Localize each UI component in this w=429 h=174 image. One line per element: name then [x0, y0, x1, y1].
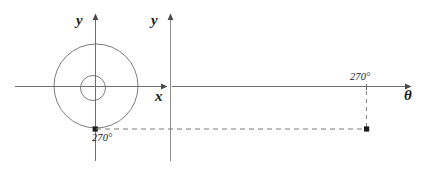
point-marker-270-rectangular [364, 126, 369, 131]
diagram-canvas [0, 0, 429, 174]
x-axis-label: x [155, 89, 163, 104]
y-axis-left-label: y [76, 13, 83, 28]
theta-axis-line-group [172, 84, 412, 90]
y-axis-right-label: y [151, 13, 158, 28]
figure-container: y y x θ 270° 270° [0, 0, 429, 174]
angle-label-270-rectangular: 270° [350, 72, 370, 83]
theta-axis-label: θ [404, 88, 412, 103]
inner-circle [81, 76, 106, 101]
y-axis-right-arrowhead-icon [168, 14, 174, 21]
y-axis-right-line-group [168, 14, 174, 162]
y-axis-left-arrowhead-icon [93, 14, 99, 21]
angle-label-270-polar: 270° [92, 133, 112, 144]
x-axis-line-group [15, 84, 168, 90]
